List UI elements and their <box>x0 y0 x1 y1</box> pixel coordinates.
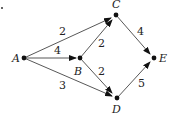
node-b <box>78 56 83 61</box>
node-d <box>115 96 120 101</box>
node-label-e: E <box>158 52 167 65</box>
node-label-d: D <box>111 103 121 116</box>
node-label-a: A <box>11 52 20 65</box>
edge-c-e <box>116 15 150 54</box>
node-a <box>22 56 27 61</box>
weight-b-d: 2 <box>98 65 105 78</box>
node-label-b: B <box>73 65 82 78</box>
stray-mark <box>1 7 3 9</box>
edge-d-e <box>117 62 150 98</box>
edge-b-d <box>80 58 112 93</box>
node-label-c: C <box>112 0 121 11</box>
weight-d-e: 5 <box>138 77 145 90</box>
node-c <box>114 13 119 18</box>
weight-a-c: 2 <box>59 25 66 38</box>
weight-a-d: 3 <box>59 79 66 92</box>
weight-a-b: 4 <box>54 44 61 57</box>
graph-diagram: A B C D E 2 4 3 2 2 4 5 <box>0 0 170 117</box>
weight-b-c: 2 <box>98 37 105 50</box>
weight-c-e: 4 <box>137 25 144 38</box>
node-e <box>152 56 157 61</box>
edge-b-c <box>80 20 112 58</box>
